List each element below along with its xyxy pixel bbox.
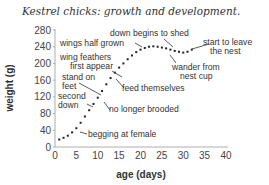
data-point xyxy=(161,47,163,49)
x-tick-label: 30 xyxy=(178,150,190,161)
data-point xyxy=(169,49,171,51)
data-point xyxy=(80,122,82,124)
data-point xyxy=(127,58,129,60)
data-point xyxy=(152,45,154,47)
data-point xyxy=(105,83,107,85)
data-point xyxy=(88,109,90,111)
x-tick-label: 35 xyxy=(199,150,211,161)
y-tick-label: 80 xyxy=(40,108,52,119)
data-point xyxy=(157,46,159,48)
annotation-leave-2: the nest xyxy=(210,46,241,56)
x-tick-label: 40 xyxy=(220,150,232,161)
annotation-second-2: down xyxy=(58,100,79,110)
data-point xyxy=(122,62,124,64)
data-point xyxy=(182,52,184,54)
annotation-wing-feathers-2: first appear xyxy=(70,61,113,71)
y-tick-label: 280 xyxy=(34,25,51,36)
data-point xyxy=(97,97,99,99)
data-point xyxy=(110,77,112,79)
data-point xyxy=(71,131,73,133)
y-tick-label: 200 xyxy=(34,58,51,69)
x-axis-label: age (days) xyxy=(116,169,165,180)
y-tick-label: 240 xyxy=(34,41,51,52)
y-tick-label: 40 xyxy=(40,125,52,136)
x-tick-label: 10 xyxy=(92,150,104,161)
chart-svg: 04080120160200240280 0510152025303540 ag… xyxy=(0,0,269,185)
data-point xyxy=(165,47,167,49)
x-tick-label: 15 xyxy=(114,150,126,161)
annotation-stand-2: feet xyxy=(62,81,77,91)
data-point xyxy=(140,49,142,51)
data-point xyxy=(144,47,146,49)
y-axis-label: weight (g) xyxy=(4,64,15,112)
x-tick-label: 0 xyxy=(52,150,58,161)
y-tick-label: 120 xyxy=(34,91,51,102)
data-point xyxy=(178,51,180,53)
data-point xyxy=(174,50,176,52)
annotation-wander-2: nest cup xyxy=(180,71,213,81)
data-point xyxy=(131,54,133,56)
x-axis-ticks: 0510152025303540 xyxy=(52,150,232,161)
data-point xyxy=(148,46,150,48)
annotation-feed: feed themselves xyxy=(122,83,185,93)
data-point xyxy=(92,103,94,105)
data-point xyxy=(135,51,137,53)
x-tick-label: 20 xyxy=(135,150,147,161)
y-tick-label: 0 xyxy=(45,142,51,153)
annotations: down begins to shed wings half grown sta… xyxy=(58,28,252,139)
data-point xyxy=(118,67,120,69)
annotation-begging: begging at female xyxy=(88,129,157,139)
y-axis-ticks: 04080120160200240280 xyxy=(34,25,55,153)
data-point xyxy=(58,138,60,140)
data-point xyxy=(67,135,69,137)
data-point xyxy=(84,115,86,117)
annotation-brooded: no longer brooded xyxy=(109,104,179,114)
data-point xyxy=(75,127,77,129)
y-tick-label: 160 xyxy=(34,75,51,86)
data-point xyxy=(187,51,189,53)
annotation-wings-half: wings half grown xyxy=(59,38,124,48)
x-tick-label: 5 xyxy=(74,150,80,161)
data-point xyxy=(63,137,65,139)
annotation-down-shed: down begins to shed xyxy=(110,28,189,38)
data-point xyxy=(101,90,103,92)
x-tick-label: 25 xyxy=(156,150,168,161)
